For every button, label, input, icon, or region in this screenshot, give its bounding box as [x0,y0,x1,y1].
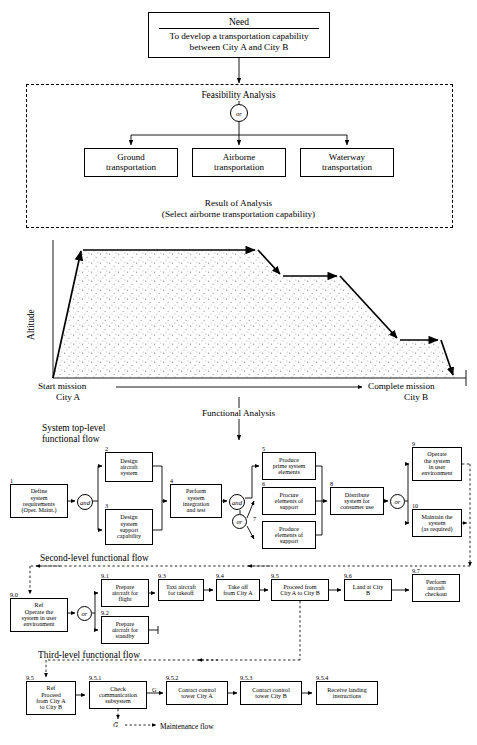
diagram-canvas: Need To develop a transportation capabil… [0,0,477,745]
altitude-profile-fill [53,250,455,378]
connector-layer [0,0,477,745]
